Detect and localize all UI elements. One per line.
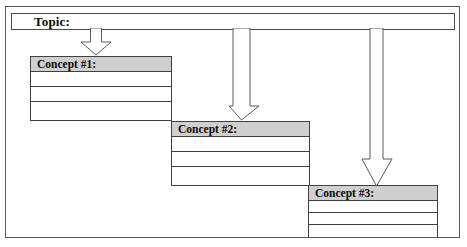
concept-2-row-2[interactable]	[172, 152, 309, 167]
concept-box-2[interactable]: Concept #2:	[171, 121, 310, 186]
concept-2-header[interactable]: Concept #2:	[172, 122, 309, 137]
concept-1-row-1[interactable]	[31, 72, 171, 87]
arrow-topic-to-concept-1	[80, 28, 112, 56]
concept-3-row-3[interactable]	[309, 225, 437, 237]
concept-box-3[interactable]: Concept #3:	[308, 185, 438, 237]
concept-box-1[interactable]: Concept #1:	[30, 56, 172, 121]
arrow-topic-to-concept-2	[228, 28, 260, 121]
concept-2-header-label: Concept #2:	[178, 122, 237, 136]
concept-1-header[interactable]: Concept #1:	[31, 57, 171, 72]
concept-3-header[interactable]: Concept #3:	[309, 186, 437, 201]
concept-map-canvas: Topic: Concept #1: Concept #2:	[0, 0, 467, 247]
concept-3-row-2[interactable]	[309, 213, 437, 225]
concept-1-row-2[interactable]	[31, 87, 171, 102]
concept-3-header-label: Concept #3:	[315, 186, 374, 200]
concept-1-header-label: Concept #1:	[37, 57, 96, 71]
concept-3-row-1[interactable]	[309, 201, 437, 213]
arrow-topic-to-concept-3	[360, 28, 394, 187]
concept-1-row-3[interactable]	[31, 102, 171, 117]
concept-2-row-1[interactable]	[172, 137, 309, 152]
topic-label: Topic:	[34, 14, 70, 29]
concept-2-row-3[interactable]	[172, 167, 309, 182]
